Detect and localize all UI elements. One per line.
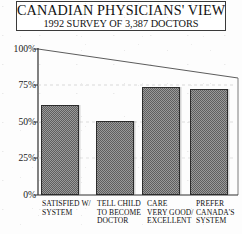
y-tick-0: 0%: [0, 190, 36, 200]
bar-prefer-canadas-system: [190, 89, 228, 195]
x-label-satisfied-with-system: SATISFIED W/ SYSTEM: [42, 200, 96, 217]
y-tick-label: 50%: [2, 117, 36, 127]
y-tick-100: 100%: [0, 44, 36, 54]
y-tick-label: 75%: [2, 80, 36, 90]
x-label-line: SYSTEM: [42, 209, 96, 218]
bar-care-very-good-excellent: [142, 87, 180, 195]
x-label-care-very-good-excellent: CARE VERY GOOD/ EXCELLENT: [147, 200, 193, 226]
x-label-prefer-canadas-system: PREFER CANADA'S SYSTEM: [196, 200, 242, 226]
y-tick-label: 100%: [2, 44, 36, 54]
chart-title-subtitle: 1992 SURVEY OF 3,387 DOCTORS: [17, 18, 225, 30]
plot-area: 100% 75% 50% 25% 0% SATISFIED W/ SYSTEM …: [0, 34, 242, 234]
y-tick-label: 25%: [2, 153, 36, 163]
bar-satisfied-with-system: [41, 105, 79, 195]
x-label-line: DOCTOR: [97, 217, 145, 226]
y-tick-75: 75%: [0, 80, 36, 90]
y-tick-50: 50%: [0, 117, 36, 127]
chart-title-box: CANADIAN PHYSICIANS' VIEWS: 1992 SURVEY …: [16, 1, 226, 31]
chart-screenshot: CANADIAN PHYSICIANS' VIEWS: 1992 SURVEY …: [0, 0, 242, 234]
x-label-line: SYSTEM: [196, 217, 242, 226]
bar-tell-child-to-become-doctor: [96, 121, 134, 195]
y-tick-25: 25%: [0, 153, 36, 163]
chart-title-main: CANADIAN PHYSICIANS' VIEWS:: [17, 2, 225, 18]
x-label-tell-child-to-become-doctor: TELL CHILD TO BECOME DOCTOR: [97, 200, 145, 226]
x-label-line: EXCELLENT: [147, 217, 193, 226]
y-tick-label: 0%: [2, 190, 36, 200]
